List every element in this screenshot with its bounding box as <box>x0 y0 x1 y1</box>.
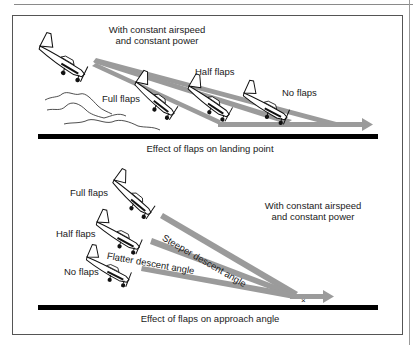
plane-icon <box>33 32 93 84</box>
bottom-label-full-flaps: Full flaps <box>70 187 108 198</box>
top-label-full-flaps: Full flaps <box>102 93 140 104</box>
top-label-no-flaps: No flaps <box>282 87 317 98</box>
bottom-label-no-flaps: No flaps <box>64 266 99 277</box>
top-conditions-line2: and constant power <box>92 35 222 46</box>
bottom-label-half-flaps: Half flaps <box>56 228 96 239</box>
bottom-runway <box>38 305 378 310</box>
top-conditions-label: With constant airspeed and constant powe… <box>92 24 222 46</box>
top-conditions-line1: With constant airspeed <box>92 24 222 35</box>
bottom-caption: Effect of flaps on approach angle <box>90 313 330 324</box>
bottom-flight-paths <box>141 213 334 303</box>
touchdown-mark: × <box>301 295 306 306</box>
diagram-artwork <box>0 0 413 345</box>
bottom-conditions-label: With constant airspeed and constant powe… <box>248 200 378 222</box>
bottom-conditions-line1: With constant airspeed <box>248 200 378 211</box>
bottom-conditions-line2: and constant power <box>248 211 378 222</box>
top-caption: Effect of flaps on landing point <box>100 143 320 154</box>
top-runway <box>38 134 378 139</box>
top-label-half-flaps: Half flaps <box>195 66 235 77</box>
